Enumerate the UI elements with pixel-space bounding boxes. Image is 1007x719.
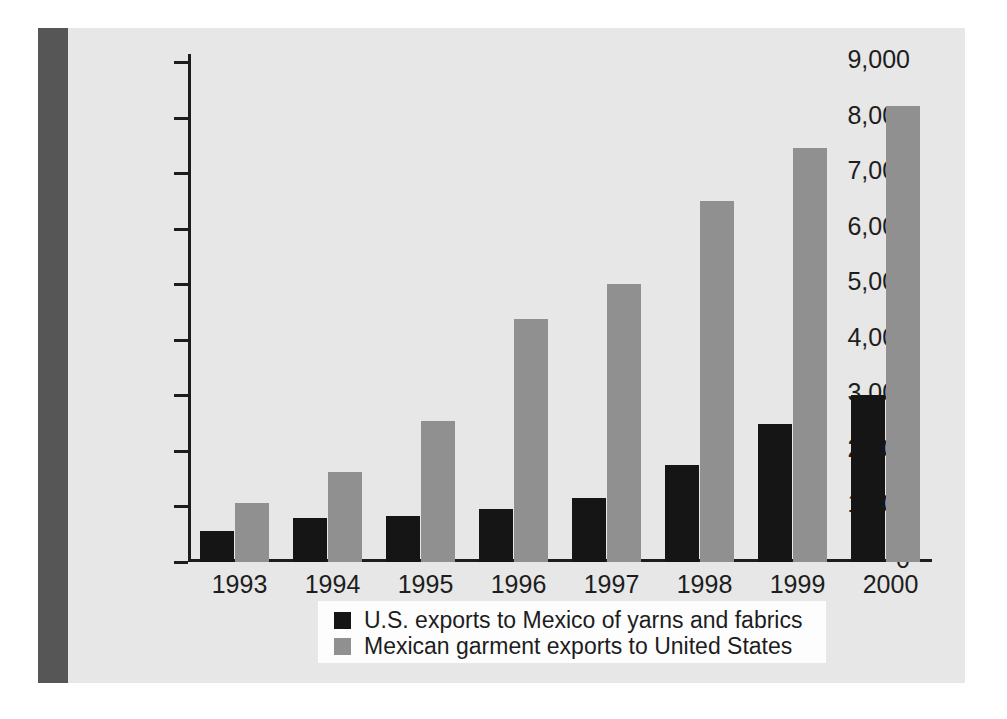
x-tick-label: 1993 bbox=[193, 570, 286, 599]
bar bbox=[665, 465, 699, 562]
bar bbox=[514, 319, 548, 562]
bar bbox=[479, 509, 513, 562]
bar-group bbox=[472, 62, 565, 562]
bar-group bbox=[193, 62, 286, 562]
bar bbox=[886, 106, 920, 562]
bar bbox=[851, 395, 885, 562]
x-tick-label: 2000 bbox=[844, 570, 937, 599]
y-tick-mark bbox=[174, 117, 188, 120]
bar bbox=[293, 518, 327, 562]
plot-area: 9,0008,0007,0006,0005,0004,0003,0002,000… bbox=[188, 62, 932, 562]
legend-label-series-1: Mexican garment exports to United States bbox=[364, 633, 792, 660]
y-tick-mark bbox=[174, 394, 188, 397]
x-tick-label: 1997 bbox=[565, 570, 658, 599]
y-tick-mark bbox=[174, 283, 188, 286]
bar-group bbox=[658, 62, 751, 562]
y-tick-mark bbox=[174, 228, 188, 231]
bar bbox=[200, 531, 234, 562]
y-tick-mark bbox=[174, 339, 188, 342]
bar bbox=[607, 284, 641, 562]
y-tick-mark bbox=[174, 505, 188, 508]
x-tick-label: 1995 bbox=[379, 570, 472, 599]
bar bbox=[758, 424, 792, 562]
bar-group bbox=[751, 62, 844, 562]
bar bbox=[235, 503, 269, 562]
chart-figure: 9,0008,0007,0006,0005,0004,0003,0002,000… bbox=[0, 0, 1007, 719]
bar bbox=[421, 421, 455, 562]
bar bbox=[793, 148, 827, 562]
x-tick-label: 1994 bbox=[286, 570, 379, 599]
y-tick-mark bbox=[174, 172, 188, 175]
legend-swatch-series-1 bbox=[334, 638, 351, 655]
left-accent-bar bbox=[38, 28, 68, 683]
legend-item: Mexican garment exports to United States bbox=[334, 633, 826, 659]
legend-swatch-series-0 bbox=[334, 612, 351, 629]
bar-group bbox=[286, 62, 379, 562]
bar bbox=[386, 516, 420, 562]
bar bbox=[572, 498, 606, 562]
bar bbox=[700, 201, 734, 562]
x-tick-label: 1999 bbox=[751, 570, 844, 599]
bar-group bbox=[379, 62, 472, 562]
bar-groups bbox=[188, 62, 932, 562]
y-tick-mark bbox=[174, 561, 188, 564]
bar-group bbox=[565, 62, 658, 562]
bar-group bbox=[844, 62, 937, 562]
legend-item: U.S. exports to Mexico of yarns and fabr… bbox=[334, 607, 826, 633]
bar bbox=[328, 472, 362, 562]
chart-legend: U.S. exports to Mexico of yarns and fabr… bbox=[318, 601, 826, 663]
y-tick-mark bbox=[174, 61, 188, 64]
legend-label-series-0: U.S. exports to Mexico of yarns and fabr… bbox=[364, 607, 802, 634]
x-tick-label: 1996 bbox=[472, 570, 565, 599]
y-tick-mark bbox=[174, 450, 188, 453]
x-tick-label: 1998 bbox=[658, 570, 751, 599]
